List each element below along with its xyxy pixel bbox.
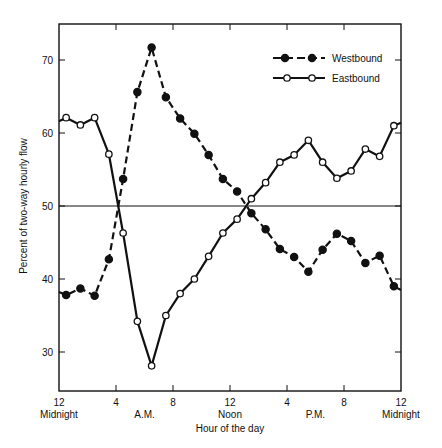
- filled-circle-marker: [205, 151, 212, 158]
- filled-circle-marker: [390, 283, 397, 290]
- filled-circle-marker: [291, 254, 298, 261]
- filled-circle-icon: [281, 54, 288, 61]
- open-circle-marker: [319, 159, 325, 165]
- open-circle-icon: [284, 75, 290, 81]
- open-circle-marker: [376, 153, 382, 159]
- filled-circle-marker: [148, 44, 155, 51]
- x-tick-label: 12: [53, 397, 65, 408]
- x-tick-sublabel: Midnight: [382, 409, 420, 420]
- series-layer: [59, 44, 401, 369]
- filled-circle-marker: [63, 291, 70, 298]
- open-circle-marker: [362, 146, 368, 152]
- open-circle-marker: [277, 159, 283, 165]
- y-axis-title: Percent of two-way hourly flow: [18, 137, 29, 273]
- x-tick-label: 4: [113, 397, 119, 408]
- open-circle-marker: [148, 363, 154, 369]
- filled-circle-marker: [120, 175, 127, 182]
- y-tick-label: 50: [42, 201, 54, 212]
- filled-circle-marker: [362, 259, 369, 266]
- filled-circle-marker: [162, 94, 169, 101]
- open-circle-marker: [163, 312, 169, 318]
- open-circle-marker: [120, 230, 126, 236]
- filled-circle-marker: [348, 237, 355, 244]
- filled-circle-marker: [105, 256, 112, 263]
- open-circle-marker: [334, 175, 340, 181]
- filled-circle-marker: [77, 285, 84, 292]
- x-tick-sublabel: Midnight: [40, 409, 78, 420]
- y-tick-label: 40: [42, 274, 54, 285]
- open-circle-marker: [305, 137, 311, 143]
- open-circle-marker: [63, 114, 69, 120]
- open-circle-marker: [291, 152, 297, 158]
- open-circle-marker: [177, 290, 183, 296]
- open-circle-marker: [91, 114, 97, 120]
- x-tick-label: 4: [284, 397, 290, 408]
- x-tick-label: 8: [341, 397, 347, 408]
- x-tick-label: 12: [395, 397, 407, 408]
- open-circle-icon: [309, 75, 315, 81]
- y-tick-label: 70: [42, 55, 54, 66]
- open-circle-marker: [205, 253, 211, 259]
- filled-circle-marker: [248, 210, 255, 217]
- open-circle-marker: [134, 318, 140, 324]
- open-circle-marker: [391, 123, 397, 129]
- line-chart: 3040506070 12Midnight4812Noon4812Midnigh…: [0, 0, 442, 448]
- open-circle-marker: [106, 151, 112, 157]
- filled-circle-marker: [276, 245, 283, 252]
- filled-circle-marker: [191, 130, 198, 137]
- filled-circle-marker: [219, 175, 226, 182]
- open-circle-marker: [248, 196, 254, 202]
- x-tick-label: 8: [170, 397, 176, 408]
- legend-label-westbound: Westbound: [332, 53, 382, 64]
- filled-circle-marker: [376, 252, 383, 259]
- x-axis-title: Hour of the day: [196, 423, 264, 434]
- legend-label-eastbound: Eastbound: [332, 73, 380, 84]
- open-circle-marker: [348, 168, 354, 174]
- open-circle-marker: [77, 122, 83, 128]
- filled-circle-marker: [234, 188, 241, 195]
- open-circle-marker: [234, 216, 240, 222]
- filled-circle-marker: [319, 246, 326, 253]
- filled-circle-marker: [177, 115, 184, 122]
- open-circle-marker: [220, 230, 226, 236]
- legend: WestboundEastbound: [273, 53, 382, 84]
- y-tick-label: 60: [42, 128, 54, 139]
- filled-circle-marker: [333, 230, 340, 237]
- filled-circle-marker: [305, 268, 312, 275]
- x-period-label: P.M.: [306, 409, 325, 420]
- filled-circle-marker: [91, 292, 98, 299]
- x-tick-label: 12: [224, 397, 236, 408]
- filled-circle-marker: [134, 89, 141, 96]
- x-tick-sublabel: Noon: [218, 409, 242, 420]
- x-period-label: A.M.: [134, 409, 155, 420]
- filled-circle-marker: [262, 226, 269, 233]
- y-tick-label: 30: [42, 347, 54, 358]
- open-circle-marker: [191, 276, 197, 282]
- filled-circle-icon: [308, 54, 315, 61]
- open-circle-marker: [262, 179, 268, 185]
